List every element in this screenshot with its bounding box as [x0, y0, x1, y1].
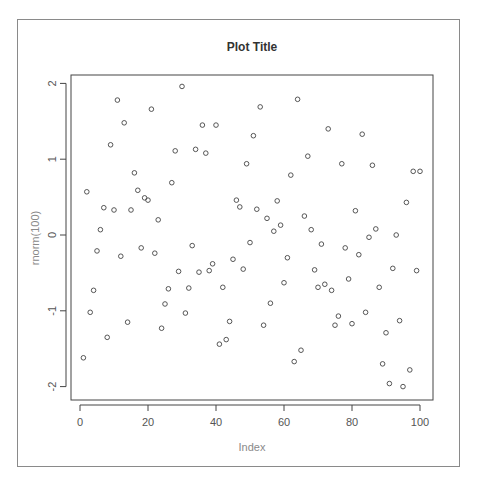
data-point: [391, 266, 396, 271]
data-point: [248, 240, 253, 245]
data-point: [129, 208, 134, 213]
data-point: [346, 277, 351, 282]
data-point: [146, 198, 151, 203]
data-point: [81, 355, 86, 360]
data-point: [357, 252, 362, 257]
data-point: [312, 268, 317, 273]
data-point: [265, 216, 270, 221]
y-tick-label: 2: [46, 80, 58, 86]
x-tick-label: 0: [77, 416, 83, 428]
data-point: [282, 280, 287, 285]
data-point: [231, 257, 236, 262]
data-point: [401, 384, 406, 389]
data-point: [210, 262, 215, 267]
data-point: [374, 227, 379, 232]
data-point: [139, 246, 144, 251]
data-point: [166, 287, 171, 292]
data-point: [159, 326, 164, 331]
data-point: [105, 335, 110, 340]
data-point: [132, 171, 137, 176]
y-tick-label: 1: [46, 156, 58, 162]
data-point: [336, 314, 341, 319]
data-point: [306, 154, 311, 159]
plot-area: [71, 75, 433, 400]
data-point: [258, 105, 263, 110]
data-point: [289, 173, 294, 178]
data-point: [224, 337, 229, 342]
x-tick-label: 20: [142, 416, 154, 428]
data-point: [238, 205, 243, 210]
data-point: [326, 127, 331, 132]
data-point: [268, 301, 273, 306]
data-point: [418, 169, 423, 174]
data-point: [108, 142, 113, 147]
data-point: [170, 180, 175, 185]
data-point: [95, 249, 100, 254]
data-point: [217, 342, 222, 347]
data-point: [234, 198, 239, 203]
data-point: [125, 320, 130, 325]
data-point: [119, 254, 124, 259]
data-point: [88, 310, 93, 315]
data-point: [350, 321, 355, 326]
data-point: [370, 163, 375, 168]
data-point: [414, 268, 419, 273]
data-point: [333, 323, 338, 328]
data-point: [329, 288, 334, 293]
data-point: [261, 323, 266, 328]
data-point: [380, 362, 385, 367]
data-point: [272, 229, 277, 234]
data-point: [244, 161, 249, 166]
data-point: [295, 97, 300, 102]
data-point: [394, 233, 399, 238]
data-point: [204, 151, 209, 156]
data-point: [285, 255, 290, 260]
data-point: [241, 267, 246, 272]
data-point: [115, 98, 120, 103]
data-point: [193, 147, 198, 152]
y-tick-label: 0: [46, 232, 58, 238]
data-point: [200, 123, 205, 128]
x-tick-label: 60: [278, 416, 290, 428]
data-point: [173, 149, 178, 154]
data-point: [102, 205, 107, 210]
data-point: [292, 359, 297, 364]
data-point: [91, 288, 96, 293]
data-point: [275, 199, 280, 204]
y-tick-label: -1: [46, 306, 58, 316]
data-point: [163, 302, 168, 307]
data-point: [309, 227, 314, 232]
data-point: [187, 286, 192, 291]
data-point: [207, 268, 212, 273]
data-point: [397, 318, 402, 323]
data-point: [411, 169, 416, 174]
data-point: [360, 132, 365, 137]
data-point: [136, 188, 141, 193]
x-tick-label: 80: [346, 416, 358, 428]
data-point: [227, 319, 232, 324]
data-point: [176, 269, 181, 274]
data-point: [214, 123, 219, 128]
data-point: [404, 200, 409, 205]
chart-title: Plot Title: [227, 40, 278, 54]
data-point: [180, 84, 185, 89]
data-point: [367, 235, 372, 240]
data-point: [340, 161, 345, 166]
data-point: [122, 121, 127, 126]
x-axis: 020406080100: [77, 405, 429, 428]
y-tick-label: -2: [46, 382, 58, 392]
data-point: [149, 107, 154, 112]
data-point: [343, 246, 348, 251]
data-point: [316, 285, 321, 290]
data-points: [81, 84, 422, 389]
data-point: [112, 208, 117, 213]
data-point: [387, 381, 392, 386]
x-tick-label: 40: [210, 416, 222, 428]
data-point: [377, 285, 382, 290]
data-point: [85, 189, 90, 194]
data-point: [98, 227, 103, 232]
data-point: [408, 368, 413, 373]
data-point: [153, 251, 158, 256]
data-point: [190, 243, 195, 248]
data-point: [156, 218, 161, 223]
